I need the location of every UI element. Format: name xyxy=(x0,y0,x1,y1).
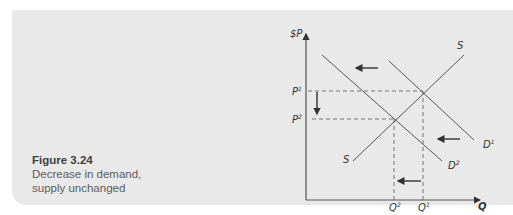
supply-curve xyxy=(353,55,464,161)
q1-label: Q1 xyxy=(418,201,430,213)
supply-label-bottom: S xyxy=(343,154,350,165)
x-axis-label: Q xyxy=(478,201,487,212)
demand1-label: D1 xyxy=(483,138,495,150)
p1-label: P1 xyxy=(292,85,302,97)
demand-curve-1 xyxy=(389,61,474,140)
demand2-label: D2 xyxy=(448,159,460,171)
y-axis-label: $P xyxy=(290,28,303,39)
demand-curve-2 xyxy=(322,55,442,161)
supply-label-top: S xyxy=(457,40,464,51)
supply-demand-diagram: $P Q P1 P2 Q2 Q1 S S D1 D2 xyxy=(0,0,513,215)
q2-label: Q2 xyxy=(389,201,401,213)
p2-label: P2 xyxy=(292,113,302,125)
